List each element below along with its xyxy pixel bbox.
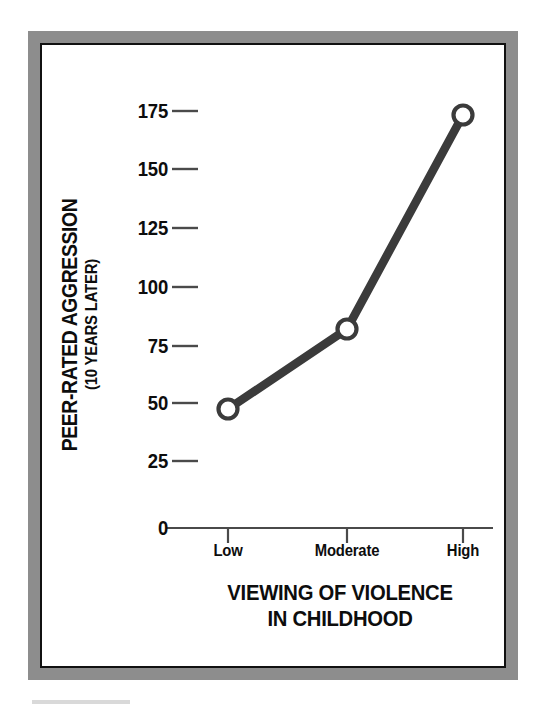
y-tick-label: 100 [119, 275, 168, 299]
y-tick-label: 150 [119, 157, 168, 181]
y-tick-label: 50 [119, 391, 168, 415]
figure-inner-border [40, 43, 506, 668]
y-tick-label: 125 [119, 216, 168, 240]
y-tick-label: 75 [119, 334, 168, 358]
y-axis-title-sub: (10 YEARS LATER) [83, 259, 100, 390]
x-tick-label-moderate: Moderate [315, 541, 380, 560]
y-tick-label: 175 [119, 99, 168, 123]
y-axis-title: PEER-RATED AGGRESSION (10 YEARS LATER) [52, 160, 108, 490]
y-axis-title-main: PEER-RATED AGGRESSION [60, 199, 82, 452]
x-axis-title-line1: VIEWING OF VIOLENCE [193, 580, 487, 606]
x-tick-label-high: High [447, 541, 479, 560]
y-tick-label: 0 [119, 516, 168, 540]
x-tick-label-low: Low [213, 541, 242, 560]
scan-artifact-mark [32, 700, 130, 704]
x-axis-title-line2: IN CHILDHOOD [193, 606, 487, 632]
x-axis-title: VIEWING OF VIOLENCE IN CHILDHOOD [180, 580, 500, 631]
y-tick-label: 25 [119, 449, 168, 473]
